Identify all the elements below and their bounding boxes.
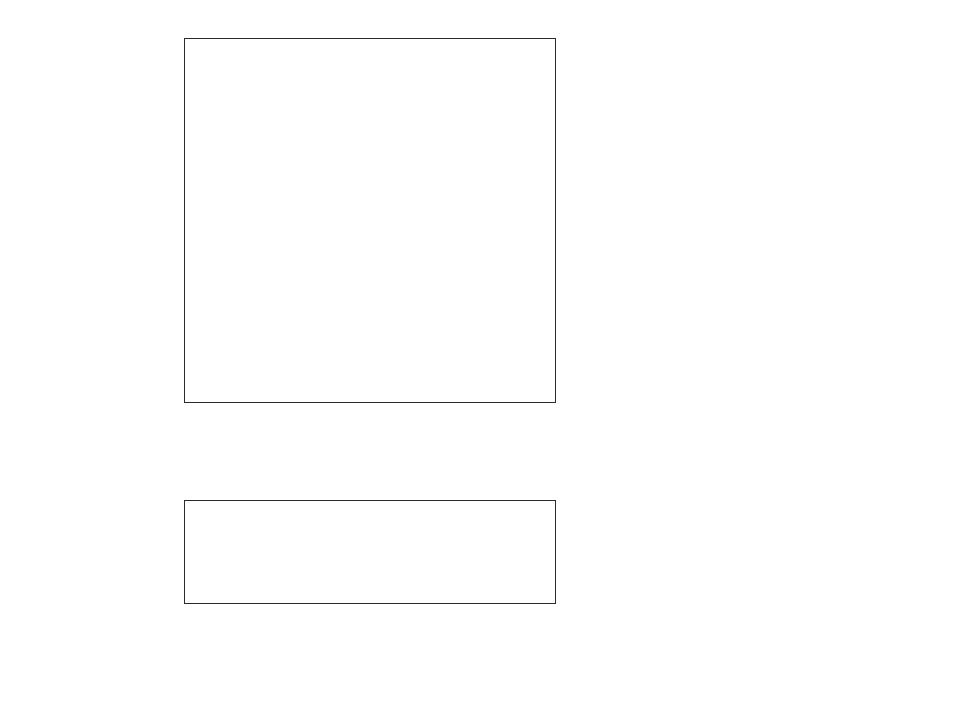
top-plot-area (184, 38, 556, 403)
household-size-bar-chart (0, 470, 640, 701)
percentage-bar-chart (0, 0, 640, 470)
bottom-plot-area (184, 500, 556, 604)
